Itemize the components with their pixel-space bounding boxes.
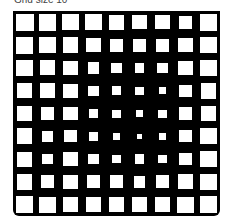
grid-cell (63, 84, 77, 98)
grid-board (13, 11, 220, 216)
grid-cell (88, 62, 100, 74)
grid-cell (155, 15, 169, 29)
grid-size-caption: Grid size 10 (14, 0, 67, 5)
grid-cell (42, 154, 53, 165)
grid-cell (17, 106, 32, 121)
grid-cell (179, 85, 192, 97)
grid-cell (201, 106, 216, 121)
grid-cell (179, 107, 192, 120)
grid-cell (135, 154, 145, 164)
grid-cell (39, 14, 56, 31)
grid-cell (200, 174, 217, 190)
grid-cell (200, 60, 216, 76)
grid-cell (135, 63, 145, 73)
grid-cell (17, 83, 32, 98)
grid-cell (87, 175, 101, 188)
grid-cell (63, 107, 77, 121)
grid-cell (177, 197, 193, 213)
grid-cell (200, 196, 217, 213)
grid-cell (89, 132, 98, 141)
grid-cell (39, 37, 56, 53)
grid-cell (158, 155, 167, 164)
grid-cell (201, 83, 217, 99)
grid-cell (63, 152, 77, 166)
grid-cell (135, 87, 143, 95)
grid-cell (85, 14, 101, 30)
grid-cell (63, 175, 78, 190)
grid-cell (132, 197, 147, 212)
grid-cell (178, 174, 193, 189)
grid-cell (16, 14, 34, 32)
grid-cell (157, 63, 168, 74)
grid-cell (112, 155, 121, 164)
grid-cell (159, 87, 166, 94)
grid-cell (134, 176, 146, 188)
grid-cell (137, 134, 142, 139)
grid-cell (156, 39, 169, 52)
grid-cell (86, 38, 101, 53)
grid-cell (158, 110, 166, 118)
grid-cell (179, 153, 192, 166)
grid-cell (39, 197, 55, 213)
grid-cell (63, 197, 78, 212)
grid-cell (86, 197, 102, 213)
grid-cell (156, 175, 169, 188)
grid-cell (109, 197, 125, 213)
grid-cell (17, 152, 32, 167)
grid-cell (62, 14, 78, 30)
grid-cell (17, 128, 33, 144)
grid-cell (16, 60, 33, 76)
grid-cell (133, 39, 146, 52)
grid-cell (88, 86, 98, 96)
grid-cell (41, 175, 54, 188)
grid-cell (110, 39, 124, 52)
grid-cell (63, 37, 79, 53)
grid-cell (89, 109, 99, 119)
grid-cell (132, 15, 146, 29)
grid-cell (42, 131, 54, 143)
grid-cell (136, 110, 144, 117)
grid-cell (16, 37, 33, 54)
grid-cell (88, 154, 99, 165)
grid-cell (40, 60, 55, 75)
grid-cell (179, 16, 193, 29)
grid-cell (112, 86, 121, 95)
grid-cell (178, 38, 192, 52)
grid-cell (200, 128, 216, 144)
grid-cell (110, 175, 123, 188)
grid-cell (111, 63, 122, 74)
grid-cell (40, 83, 55, 98)
grid-cell (178, 61, 192, 75)
grid-cell (41, 107, 54, 120)
grid-cell (17, 174, 33, 190)
grid-cell (16, 196, 33, 213)
grid-cell (200, 151, 217, 167)
grid-cell (112, 110, 120, 118)
grid-cell (200, 14, 217, 31)
grid-cell (113, 133, 121, 140)
grid-cell (109, 15, 125, 31)
grid-cell (179, 130, 192, 142)
grid-cell (63, 61, 78, 76)
grid-cell (155, 197, 170, 212)
grid-cell (200, 37, 216, 53)
grid-cell (64, 130, 77, 142)
grid-cell (159, 133, 166, 140)
